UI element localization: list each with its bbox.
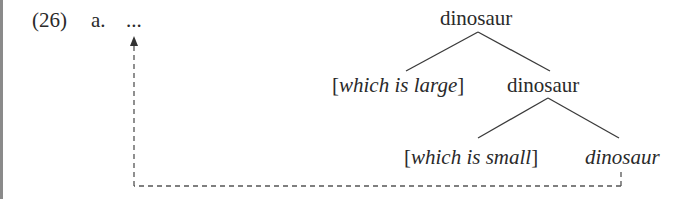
tree-leaf-label: dinosaur bbox=[585, 147, 660, 168]
example-number: (26) bbox=[32, 10, 67, 31]
branch-mid-right bbox=[548, 98, 619, 138]
branch-mid-left bbox=[478, 98, 548, 138]
branch-root-right bbox=[478, 32, 550, 71]
relative-clause-large: [which is large] bbox=[332, 75, 464, 96]
tree-root-label: dinosaur bbox=[440, 8, 512, 29]
relative-clause-small: [which is small] bbox=[404, 147, 538, 168]
tree-mid-label: dinosaur bbox=[507, 75, 579, 96]
movement-arrow bbox=[134, 46, 621, 186]
branch-root-left bbox=[406, 32, 478, 71]
ellipsis: ... bbox=[126, 10, 142, 31]
arrowhead-icon bbox=[130, 36, 138, 46]
example-sub-label: a. bbox=[91, 10, 106, 31]
